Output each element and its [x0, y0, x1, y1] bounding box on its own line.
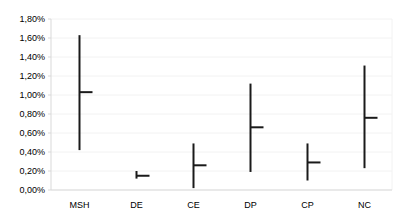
y-tick-label: 0,80% [19, 109, 45, 119]
hlc-bar-ce [194, 143, 207, 188]
y-tick-label: 1,40% [19, 52, 45, 62]
x-category-label: MSH [70, 200, 90, 210]
hlc-bar-nc [365, 66, 378, 169]
y-tick-label: 0,00% [19, 185, 45, 195]
hlc-bar-de [137, 171, 150, 179]
hlc-bar-cp [308, 143, 321, 180]
y-tick-label: 1,80% [19, 14, 45, 24]
y-tick-label: 0,60% [19, 128, 45, 138]
y-tick-label: 0,20% [19, 166, 45, 176]
y-tick-label: 1,60% [19, 33, 45, 43]
high-low-close-chart: 0,00%0,20%0,40%0,60%0,80%1,00%1,20%1,40%… [0, 0, 402, 221]
x-category-label: CP [301, 200, 314, 210]
x-category-label: DP [244, 200, 257, 210]
y-tick-label: 0,40% [19, 147, 45, 157]
x-category-label: CE [187, 200, 200, 210]
x-category-label: NC [358, 200, 371, 210]
chart-canvas: 0,00%0,20%0,40%0,60%0,80%1,00%1,20%1,40%… [0, 0, 402, 221]
hlc-bar-dp [251, 84, 264, 172]
y-axis: 0,00%0,20%0,40%0,60%0,80%1,00%1,20%1,40%… [19, 14, 51, 195]
data-series [80, 35, 378, 188]
x-category-label: DE [130, 200, 143, 210]
y-tick-label: 1,00% [19, 90, 45, 100]
gridlines [51, 19, 392, 190]
x-axis: MSHDECEDPCPNC [51, 190, 392, 210]
y-tick-label: 1,20% [19, 71, 45, 81]
